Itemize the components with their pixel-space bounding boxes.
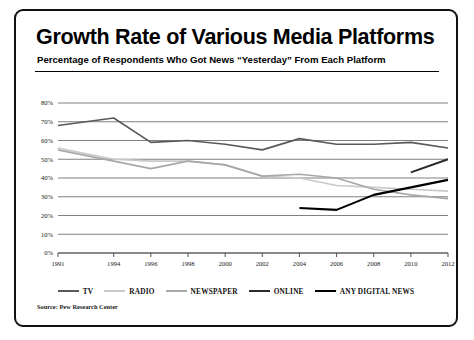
x-axis-tick-label: 1998 bbox=[181, 260, 195, 267]
y-axis-tick-label: 60% bbox=[41, 137, 54, 144]
y-axis-tick-label: 0% bbox=[44, 249, 53, 256]
x-axis-tick-label: 2004 bbox=[293, 260, 307, 267]
y-axis-tick-label: 50% bbox=[41, 156, 54, 163]
y-axis-tick-label: 30% bbox=[41, 193, 54, 200]
legend-label-tv: TV bbox=[83, 287, 94, 296]
x-axis-tick-label: 2000 bbox=[219, 260, 233, 267]
x-axis-tick-label: 2010 bbox=[404, 260, 418, 267]
x-axis-tick-label: 2012 bbox=[441, 260, 454, 267]
legend-item-any_digital_news[interactable]: ANY DIGITAL NEWS bbox=[315, 287, 415, 296]
y-axis-tick-label: 10% bbox=[41, 231, 54, 238]
legend-item-tv[interactable]: TV bbox=[58, 287, 94, 296]
legend-label-radio: RADIO bbox=[129, 287, 154, 296]
title-divider bbox=[35, 71, 439, 72]
y-axis-tick-label: 20% bbox=[41, 212, 54, 219]
series-line-radio bbox=[58, 148, 448, 191]
chart-card: Growth Rate of Various Media Platforms P… bbox=[14, 9, 458, 327]
legend-label-any_digital_news: ANY DIGITAL NEWS bbox=[340, 287, 415, 296]
y-axis-tick-label: 40% bbox=[41, 174, 54, 181]
legend-item-newspaper[interactable]: NEWSPAPER bbox=[166, 287, 238, 296]
legend-item-radio[interactable]: RADIO bbox=[104, 287, 154, 296]
x-axis-tick-label: 1991 bbox=[51, 260, 64, 267]
legend-label-newspaper: NEWSPAPER bbox=[191, 287, 238, 296]
series-line-any_digital_news bbox=[299, 180, 448, 210]
plot-area: 0%10%20%30%40%50%60%70%80%19911994199619… bbox=[16, 83, 456, 283]
legend-item-online[interactable]: ONLINE bbox=[249, 287, 304, 296]
x-axis-tick-label: 1996 bbox=[144, 260, 158, 267]
legend-swatch-any_digital_news bbox=[315, 290, 336, 292]
line-chart-svg: 0%10%20%30%40%50%60%70%80%19911994199619… bbox=[16, 83, 456, 283]
series-line-tv bbox=[58, 118, 448, 150]
chart-subtitle: Percentage of Respondents Who Got News “… bbox=[37, 54, 386, 65]
x-axis-tick-label: 1994 bbox=[107, 260, 121, 267]
page-title: Growth Rate of Various Media Platforms bbox=[36, 25, 434, 50]
y-axis-tick-label: 80% bbox=[41, 99, 54, 106]
legend-swatch-online bbox=[249, 290, 270, 292]
series-line-online bbox=[411, 159, 448, 172]
y-axis-tick-label: 70% bbox=[41, 118, 54, 125]
x-axis-tick-label: 2006 bbox=[330, 260, 344, 267]
chart-legend: TVRADIONEWSPAPERONLINEANY DIGITAL NEWS bbox=[16, 283, 456, 299]
x-axis-tick-label: 2008 bbox=[367, 260, 381, 267]
x-axis-tick-label: 2002 bbox=[256, 260, 269, 267]
legend-swatch-newspaper bbox=[166, 290, 187, 292]
legend-swatch-radio bbox=[104, 290, 125, 292]
source-note: Source: Pew Research Center bbox=[37, 303, 118, 310]
legend-label-online: ONLINE bbox=[274, 287, 304, 296]
legend-swatch-tv bbox=[58, 290, 79, 292]
